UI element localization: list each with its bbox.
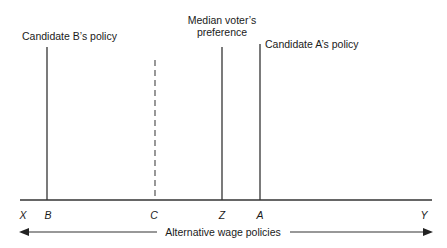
candidate-b-label: Candidate B’s policy: [22, 30, 117, 42]
point-z-label: Z: [219, 209, 225, 221]
median-voter-label-line2: preference: [197, 26, 247, 38]
left-arrowhead-icon: [19, 228, 29, 236]
right-arrowhead-icon: [423, 228, 433, 236]
point-y-label: Y: [420, 209, 427, 221]
median-voter-label-line1: Median voter’s: [188, 14, 256, 26]
point-c-label: C: [150, 209, 158, 221]
point-x-label: X: [19, 209, 26, 221]
candidate-a-label: Candidate A’s policy: [265, 38, 359, 50]
point-b-label: B: [44, 209, 51, 221]
point-a-label: A: [256, 209, 263, 221]
axis-caption: Alternative wage policies: [165, 226, 281, 238]
